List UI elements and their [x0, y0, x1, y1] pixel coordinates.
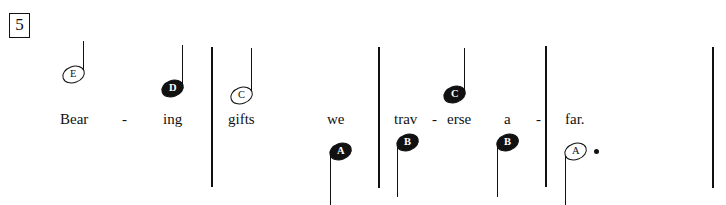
- note-letter: E: [70, 69, 76, 80]
- note-stem: [497, 142, 499, 197]
- lyric-syllable-gifts: gifts: [228, 112, 255, 127]
- augmentation-dot: [594, 149, 599, 154]
- barline-1: [211, 47, 213, 187]
- lyric-syllable-a: a: [504, 112, 511, 127]
- note-letter: B: [504, 137, 511, 148]
- note-stem: [397, 142, 399, 197]
- lyric-syllable-ing: ing: [163, 112, 182, 127]
- note-letter: C: [451, 89, 459, 100]
- barline-2: [378, 47, 380, 188]
- lyric-syllable-erse: erse: [447, 112, 471, 127]
- measure-number-box: 5: [9, 13, 30, 38]
- lyric-hyphen-1: -: [122, 112, 127, 127]
- barline-4: [712, 47, 714, 188]
- barline-3: [545, 46, 547, 187]
- note-letter: C: [238, 90, 245, 101]
- note-letter: A: [337, 146, 345, 157]
- lyric-syllable-bear: Bear: [60, 112, 88, 127]
- lyric-hyphen-3: -: [536, 112, 541, 127]
- lyric-syllable-we: we: [327, 112, 345, 127]
- lyric-hyphen-2: -: [432, 112, 437, 127]
- note-letter: D: [169, 83, 177, 94]
- note-stem: [330, 151, 332, 205]
- note-letter: B: [404, 137, 411, 148]
- note-stem: [565, 151, 567, 205]
- music-notation-sheet: 5 E D C A B: [0, 0, 726, 205]
- note-letter: A: [572, 146, 580, 157]
- lyric-syllable-far: far.: [565, 112, 585, 127]
- lyric-syllable-trav: trav: [394, 112, 417, 127]
